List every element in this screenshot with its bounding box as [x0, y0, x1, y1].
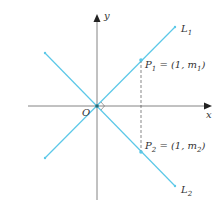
y-axis-label: y — [103, 10, 110, 21]
l2-label: L2 — [180, 184, 193, 198]
origin-point — [95, 104, 99, 108]
point-p2 — [139, 150, 143, 154]
p1-label: P1 = (1, m1) — [144, 59, 206, 73]
line-l1 — [45, 27, 175, 158]
origin-label: O — [82, 107, 90, 118]
p2-label: P2 = (1, m2) — [144, 140, 206, 154]
point-p1 — [139, 58, 143, 62]
y-axis-arrow-icon — [94, 14, 101, 22]
perpendicular-lines-diagram: y x O L1 L2 P1 = (1, m1) P2 = (1, m2) — [0, 0, 223, 213]
x-axis-label: x — [206, 109, 212, 120]
l1-label: L1 — [180, 23, 192, 37]
